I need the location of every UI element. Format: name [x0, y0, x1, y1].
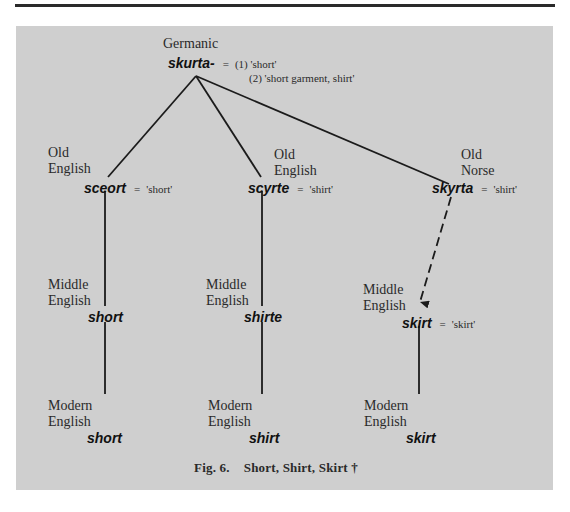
- root-form: skurta-: [168, 55, 215, 71]
- col3-modern-lang-line2: English: [364, 414, 407, 430]
- col2-old-form: scyrte: [248, 180, 289, 196]
- col2-modern-lang-line2: English: [208, 414, 251, 430]
- col1-modern-lang-line1: Modern: [48, 398, 92, 414]
- col3-middle-lang-line1: Middle: [363, 282, 403, 298]
- branch-line-old-english-2: [196, 76, 261, 177]
- col3-modern-lang-line1: Modern: [364, 398, 408, 414]
- col2-middle-form: shirte: [244, 309, 282, 325]
- col2-middle-lang-line1: Middle: [206, 277, 246, 293]
- col3-old-form: skyrta: [432, 180, 473, 196]
- col2-middle-lang-line2: English: [206, 293, 249, 309]
- branch-line-old-english-1: [108, 76, 196, 177]
- col2-modern-lang-line1: Modern: [208, 398, 252, 414]
- col1-old-entry: sceort='short': [84, 179, 172, 197]
- col2-modern-form: shirt: [249, 430, 279, 446]
- root-entry: skurta-=(1) 'short': [168, 54, 276, 72]
- col1-middle-form: short: [88, 309, 123, 325]
- col3-old-lang-line2: Norse: [461, 163, 494, 179]
- equals-sign: =: [223, 58, 229, 70]
- equals-sign: =: [134, 183, 140, 195]
- root-gloss-2: (2) 'short garment, shirt': [249, 72, 354, 84]
- col3-middle-form: skirt: [402, 315, 432, 331]
- figure-caption: Fig. 6.Short, Shirt, Skirt †: [194, 460, 358, 476]
- col1-modern-lang-line2: English: [48, 414, 91, 430]
- col3-old-lang-line1: Old: [461, 147, 482, 163]
- col2-old-lang-line2: English: [274, 163, 317, 179]
- branch-line-old-norse: [196, 76, 449, 184]
- col3-modern-form: skirt: [406, 430, 436, 446]
- col1-old-form: sceort: [84, 180, 126, 196]
- col1-middle-lang-line2: English: [48, 293, 91, 309]
- col3-middle-entry: skirt='skirt': [402, 314, 475, 332]
- borrowing-dashed-arrow: [420, 197, 451, 302]
- col1-old-gloss: 'short': [146, 183, 172, 195]
- col3-old-entry: skyrta='shirt': [432, 179, 517, 197]
- equals-sign: =: [297, 183, 303, 195]
- col2-old-entry: scyrte='shirt': [248, 179, 333, 197]
- col3-middle-gloss: 'skirt': [452, 318, 476, 330]
- equals-sign: =: [440, 318, 446, 330]
- equals-sign: =: [481, 183, 487, 195]
- figure-title: Short, Shirt, Skirt †: [244, 460, 358, 475]
- col1-middle-lang-line1: Middle: [48, 277, 88, 293]
- col2-old-gloss: 'shirt': [309, 183, 333, 195]
- col1-old-lang-line2: English: [48, 161, 91, 177]
- col1-modern-form: short: [87, 430, 122, 446]
- root-gloss-1: (1) 'short': [235, 58, 277, 70]
- col3-old-gloss: 'shirt': [493, 183, 517, 195]
- col2-old-lang-line1: Old: [274, 147, 295, 163]
- col3-middle-lang-line2: English: [363, 298, 406, 314]
- figure-number: Fig. 6.: [194, 460, 230, 475]
- root-language-label: Germanic: [163, 36, 218, 52]
- col1-old-lang-line1: Old: [48, 145, 69, 161]
